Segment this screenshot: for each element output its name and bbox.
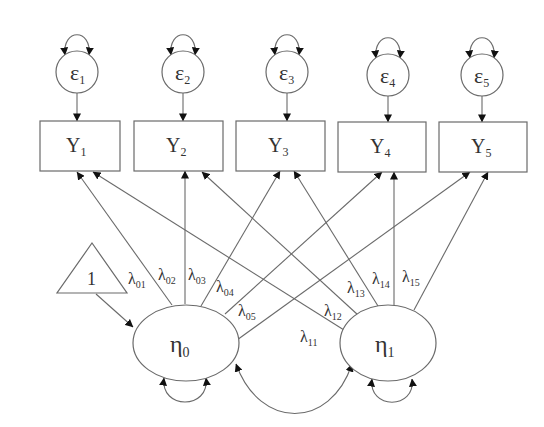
- error-terms: ε1 ε2 ε3 ε4 ε5: [56, 51, 503, 96]
- variance-loop-eta1: [372, 379, 412, 402]
- loading-label-05: λ05: [238, 302, 256, 322]
- loading-label-03: λ03: [188, 266, 206, 286]
- path-diagram: ε1 ε2 ε3 ε4 ε5 1: [0, 0, 544, 427]
- latent-node-eta1: [340, 305, 436, 381]
- loading-arrow-03: [201, 171, 280, 306]
- error-arrows: [77, 93, 482, 122]
- loading-label-15: λ15: [402, 268, 420, 288]
- loading-arrow-13: [294, 171, 378, 306]
- constant-arrow: [96, 294, 133, 327]
- variance-loop-eta0: [164, 378, 206, 402]
- constant-node: 1: [57, 243, 133, 327]
- factor-loading-arrows: [77, 171, 488, 340]
- latent-node-eta0: [133, 305, 239, 381]
- loading-label-11: λ11: [300, 328, 317, 348]
- loading-label-01: λ01: [128, 270, 146, 290]
- loading-arrow-11: [93, 172, 344, 330]
- loading-label-04: λ04: [216, 278, 234, 298]
- loading-label-13: λ13: [347, 279, 365, 299]
- latent-factors: η0 η1: [133, 305, 436, 381]
- constant-label: 1: [87, 269, 96, 289]
- loading-label-02: λ02: [158, 266, 176, 286]
- loading-label-14: λ14: [372, 270, 390, 290]
- latent-covariance-arc: [236, 364, 352, 414]
- loading-arrow-15: [414, 172, 488, 310]
- observed-variables: Y1 Y2 Y3 Y4 Y5: [40, 121, 527, 172]
